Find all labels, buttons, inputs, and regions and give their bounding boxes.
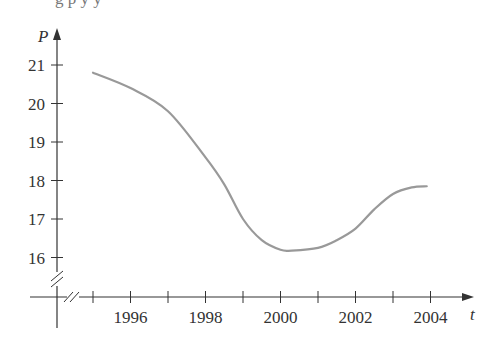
- y-tick-label: 18: [28, 172, 45, 191]
- x-tick-label: 2000: [264, 308, 298, 327]
- y-tick-label: 17: [28, 210, 46, 229]
- y-tick-label: 16: [28, 249, 45, 268]
- x-axis-arrow-icon: [462, 293, 474, 301]
- y-axis-arrow-icon: [53, 28, 61, 40]
- x-tick-label: 2004: [414, 308, 449, 327]
- y-tick-label: 20: [28, 95, 45, 114]
- y-axis-label: P: [37, 27, 48, 46]
- x-tick-label: 2002: [339, 308, 373, 327]
- data-line: [93, 73, 427, 251]
- x-axis-label: t: [470, 305, 476, 324]
- x-tick-label: 1996: [114, 308, 148, 327]
- tick-labels: 19961998200020022004161718192021Pt: [28, 27, 476, 327]
- ticks: [51, 65, 431, 303]
- chart: 19961998200020022004161718192021Pt: [0, 0, 487, 344]
- x-tick-label: 1998: [189, 308, 223, 327]
- y-tick-label: 21: [28, 56, 45, 75]
- y-tick-label: 19: [28, 133, 45, 152]
